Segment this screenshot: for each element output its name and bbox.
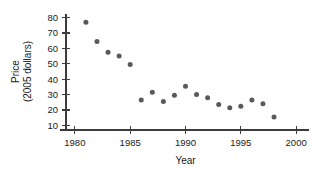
y-tick-label: 10 [47, 120, 58, 131]
scatter-chart: 1020304050607080 19801985199019952000 19… [0, 0, 317, 171]
data-point: 1983: 57.5 [106, 50, 111, 55]
data-point: 1987: 31.5 [150, 90, 155, 95]
x-tick-label: 1985 [120, 137, 141, 148]
data-point: 1992: 28 [205, 95, 210, 100]
y-axis-tick-labels: 1020304050607080 [47, 12, 58, 131]
x-axis-tick-labels: 19801985199019952000 [64, 137, 306, 148]
data-point: 1988: 25.5 [161, 99, 166, 104]
y-tick-label: 40 [47, 74, 58, 85]
data-point: 1995: 22.5 [238, 104, 243, 109]
data-point: 1989: 29.5 [172, 93, 177, 98]
data-point: 1991: 30 [194, 92, 199, 97]
data-point: 1984: 55 [117, 54, 122, 59]
y-tick-label: 20 [47, 104, 58, 115]
data-point: 1997: 24 [260, 101, 265, 106]
data-point-series: 1981: 771982: 64.51983: 57.51984: 551985… [83, 20, 276, 120]
chart-canvas: 1020304050607080 19801985199019952000 19… [0, 0, 317, 171]
data-point: 1993: 23.5 [216, 102, 221, 107]
data-point: 1982: 64.5 [94, 39, 99, 44]
x-axis-title: Year [175, 155, 196, 166]
y-tick-label: 30 [47, 89, 58, 100]
x-tick-label: 1980 [64, 137, 85, 148]
y-axis-title-line2: (2005 dollars) [22, 41, 33, 102]
data-point: 1990: 35.5 [183, 84, 188, 89]
x-tick-label: 2000 [286, 137, 307, 148]
data-point: 1996: 26.5 [249, 97, 254, 102]
x-tick-label: 1995 [230, 137, 251, 148]
y-tick-label: 60 [47, 43, 58, 54]
y-tick-label: 50 [47, 58, 58, 69]
data-point: 1998: 15.5 [272, 114, 277, 119]
data-point: 1981: 77 [83, 20, 88, 25]
data-point: 1986: 26.5 [139, 97, 144, 102]
y-tick-label: 80 [47, 12, 58, 23]
x-tick-label: 1990 [175, 137, 196, 148]
data-point: 1994: 21.5 [227, 105, 232, 110]
data-point: 1985: 49.5 [128, 62, 133, 67]
y-axis-title-line1: Price [10, 60, 21, 83]
y-tick-label: 70 [47, 27, 58, 38]
